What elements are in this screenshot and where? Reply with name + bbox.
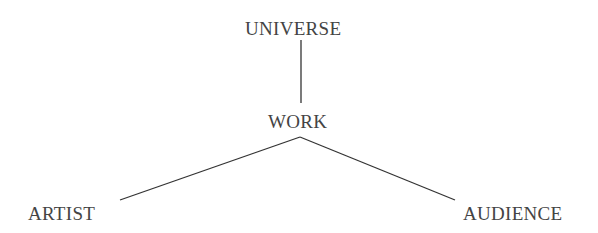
node-audience: AUDIENCE [463, 204, 563, 223]
diagram-canvas: UNIVERSE WORK ARTIST AUDIENCE [0, 0, 598, 233]
node-artist: ARTIST [28, 204, 95, 223]
node-work: WORK [268, 112, 327, 131]
edge-work-audience [300, 137, 455, 200]
edge-work-artist [120, 137, 300, 200]
node-universe: UNIVERSE [245, 19, 341, 38]
